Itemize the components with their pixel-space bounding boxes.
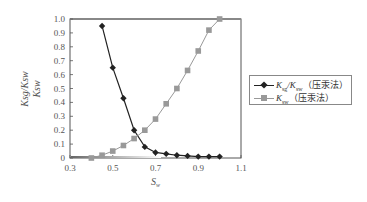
x-tick-label: 0.5	[107, 163, 119, 173]
diamond-marker	[216, 153, 222, 159]
square-marker	[195, 48, 201, 54]
legend-swatch-square	[254, 92, 274, 104]
legend-label-ksg-ksw: Ksg/Ksw（压汞法）	[276, 78, 348, 92]
svg-text:Ksg/Ksw: Ksg/Ksw	[19, 71, 30, 108]
x-axis-label: Sw	[151, 176, 160, 188]
diamond-marker	[163, 151, 169, 157]
legend: Ksg/Ksw（压汞法） Ksw（压汞法）	[249, 75, 352, 105]
diamond-marker	[174, 152, 180, 158]
square-marker-icon	[261, 95, 267, 101]
svg-text:Ksw: Ksw	[31, 80, 42, 99]
y-tick-label: 0.8	[54, 42, 66, 52]
square-marker	[174, 86, 180, 92]
y-tick-label: 0.1	[54, 139, 65, 149]
square-marker	[153, 116, 159, 122]
y-tick-label: 0.3	[54, 111, 66, 121]
diamond-marker	[131, 127, 137, 133]
diamond-marker	[152, 149, 158, 155]
diamond-marker	[206, 153, 212, 159]
diamond-marker-icon	[260, 81, 267, 88]
square-marker	[217, 16, 223, 22]
plot-frame	[70, 19, 241, 158]
diamond-marker	[142, 144, 148, 150]
y-tick-label: 0.2	[54, 125, 65, 135]
square-marker	[99, 152, 105, 158]
diamond-marker	[120, 95, 126, 101]
y-tick-label: 0.5	[54, 84, 66, 94]
series-line-0	[102, 26, 220, 157]
y-axis-label: Ksg/KswKsw	[19, 71, 42, 108]
x-tick-label: 1.1	[235, 163, 246, 173]
square-marker	[131, 136, 137, 142]
x-tick-label: 0.3	[64, 163, 76, 173]
legend-item-ksw: Ksw（压汞法）	[254, 92, 334, 104]
y-tick-label: 0.9	[54, 28, 66, 38]
diamond-marker	[99, 23, 105, 29]
legend-swatch-diamond	[254, 79, 274, 91]
y-tick-label: 1.0	[54, 14, 66, 24]
y-tick-label: 0.4	[54, 97, 66, 107]
y-tick-label: 0	[61, 153, 66, 163]
square-marker	[206, 27, 212, 33]
y-tick-label: 0.7	[54, 56, 66, 66]
diamond-marker	[195, 153, 201, 159]
square-marker	[89, 155, 95, 161]
square-marker	[185, 68, 191, 74]
square-marker	[142, 127, 148, 133]
series-line-1	[91, 19, 219, 158]
diamond-marker	[110, 64, 116, 70]
x-tick-label: 0.7	[150, 163, 162, 173]
legend-item-ksg-ksw: Ksg/Ksw（压汞法）	[254, 79, 348, 91]
x-tick-label: 0.9	[193, 163, 205, 173]
y-tick-label: 0.6	[54, 70, 66, 80]
baseline-shade	[71, 156, 161, 158]
square-marker	[121, 143, 127, 149]
legend-label-ksw: Ksw（压汞法）	[276, 91, 334, 105]
square-marker	[110, 148, 116, 154]
square-marker	[163, 101, 169, 107]
